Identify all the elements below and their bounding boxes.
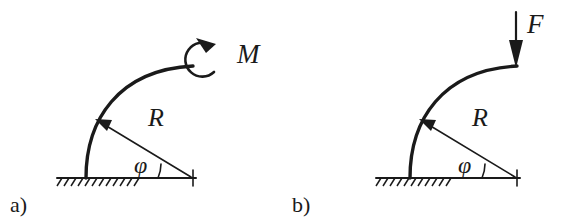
force-label-b: F [526,9,544,39]
radius-label-a: R [147,103,164,132]
panel-caption-a: a) [10,192,27,217]
moment-label-a: M [236,39,261,69]
angle-label-a: φ [134,152,147,178]
mechanics-figure-canvas: M R φ a) [0,0,564,224]
angle-label-b: φ [458,152,471,178]
panel-caption-b: b) [292,192,310,217]
radius-label-b: R [471,103,488,132]
